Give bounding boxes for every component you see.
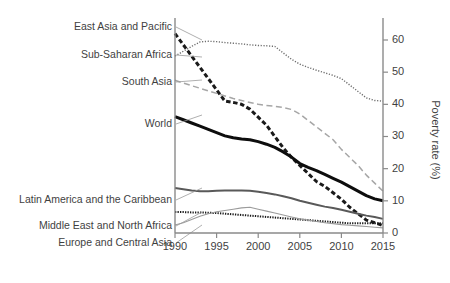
series-layer [175,34,383,228]
leader-lines-layer [176,27,202,243]
y-tick-label-50: 50 [392,65,404,77]
series-labels-layer: East Asia and PacificSub-Saharan AfricaS… [19,20,172,248]
x-tick-label-2015: 2015 [371,240,395,252]
x-tick-label-2005: 2005 [288,240,312,252]
series-line-europe-and-central-asia [175,207,383,228]
x-tick-label-1995: 1995 [204,240,228,252]
series-label-middle-east-and-north-africa: Middle East and North Africa [39,219,172,231]
y-tick-label-10: 10 [392,194,404,206]
series-label-world: World [145,117,172,129]
leader-line-middle-east-and-north-africa [176,212,202,226]
leader-line-south-asia [176,80,202,82]
series-label-south-asia: South Asia [122,75,172,87]
series-line-sub-saharan-africa [175,41,383,101]
y-tick-label-60: 60 [392,33,404,45]
x-tick-label-1990: 1990 [163,240,187,252]
y-tick-label-0: 0 [392,226,398,238]
chart-canvas: East Asia and PacificSub-Saharan AfricaS… [0,0,450,283]
series-label-east-asia-and-pacific: East Asia and Pacific [74,20,172,32]
x-tick-label-2000: 2000 [246,240,270,252]
y-axis-title: Poverty rate (%) [430,100,442,179]
series-label-europe-and-central-asia: Europe and Central Asia [58,236,172,248]
y-tick-label-20: 20 [392,162,404,174]
series-line-south-asia [175,80,383,191]
x-tick-label-2010: 2010 [329,240,353,252]
series-label-latin-america-and-the-caribbean: Latin America and the Caribbean [19,193,172,205]
leader-line-sub-saharan-africa [176,55,202,57]
y-tick-label-30: 30 [392,129,404,141]
leader-line-east-asia-and-pacific [176,27,202,40]
series-label-sub-saharan-africa: Sub-Saharan Africa [81,48,172,60]
poverty-rate-chart: East Asia and PacificSub-Saharan AfricaS… [0,0,450,283]
series-line-world [175,117,383,201]
y-tick-label-40: 40 [392,97,404,109]
